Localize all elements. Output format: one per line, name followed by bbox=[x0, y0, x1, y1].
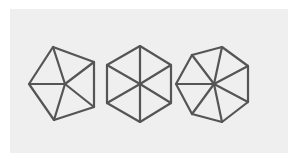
hexagon-shape bbox=[107, 46, 171, 122]
pentagon-spoke bbox=[65, 84, 94, 107]
pentagon-spoke bbox=[53, 47, 65, 84]
polygon-diagram bbox=[0, 0, 299, 163]
hexagon-spoke bbox=[140, 84, 171, 103]
hexagon-spoke bbox=[107, 84, 140, 103]
heptagon-spoke bbox=[214, 84, 248, 102]
hexagon-spoke bbox=[107, 65, 140, 84]
pentagon-spoke bbox=[54, 84, 65, 120]
heptagon-spoke bbox=[214, 66, 248, 84]
heptagon-spoke bbox=[192, 55, 214, 84]
pentagon-shape bbox=[29, 47, 94, 120]
pentagon-spoke bbox=[65, 62, 94, 84]
hexagon-spoke bbox=[140, 65, 171, 84]
heptagon-shape bbox=[176, 47, 248, 122]
heptagon-spoke bbox=[214, 47, 222, 84]
heptagon-spoke bbox=[214, 84, 222, 122]
heptagon-spoke bbox=[192, 84, 214, 114]
